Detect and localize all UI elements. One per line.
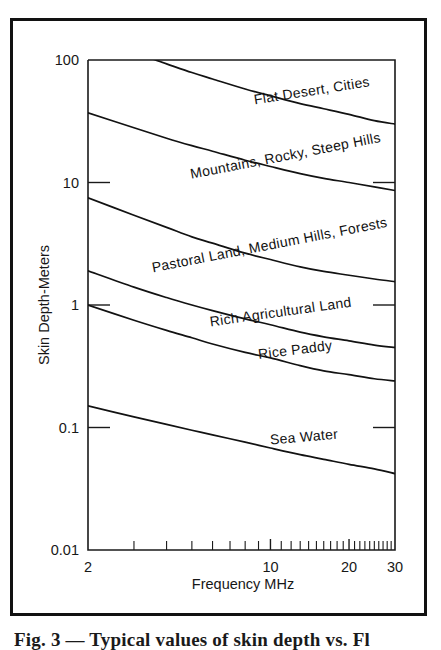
x-tick-label: 30 bbox=[387, 559, 403, 575]
y-tick-label: 0.01 bbox=[51, 542, 79, 558]
curve-label-1: Mountains, Rocky, Steep Hills bbox=[189, 129, 382, 182]
curve-label-0: Flat Desert, Cities bbox=[253, 73, 371, 107]
x-axis-ticks: 2102030 bbox=[84, 539, 403, 575]
curve-label-4: Rice Paddy bbox=[257, 337, 333, 362]
x-tick-label: 2 bbox=[84, 559, 92, 575]
curve-5 bbox=[88, 406, 395, 474]
x-tick-label: 20 bbox=[341, 559, 357, 575]
skin-depth-chart: 0.010.1110100 2102030 Flat Desert, Citie… bbox=[0, 0, 441, 650]
x-tick-label: 10 bbox=[262, 559, 278, 575]
curve-1 bbox=[88, 113, 395, 191]
curve-label-5: Sea Water bbox=[269, 426, 338, 448]
figure-caption: Fig. 3 — Typical values of skin depth vs… bbox=[14, 629, 434, 650]
y-tick-label: 10 bbox=[63, 175, 79, 191]
curve-label-3: Rich Agricultural Land bbox=[209, 294, 353, 330]
y-axis-title: Skin Depth-Meters bbox=[36, 245, 52, 365]
curve-label-2: Pastoral Land, Medium Hills, Forests bbox=[150, 214, 388, 275]
curve-labels: Flat Desert, CitiesMountains, Rocky, Ste… bbox=[150, 73, 388, 447]
y-tick-label: 100 bbox=[55, 52, 79, 68]
y-tick-label: 1 bbox=[71, 297, 79, 313]
x-axis-title: Frequency MHz bbox=[192, 576, 294, 592]
y-tick-label: 0.1 bbox=[59, 420, 79, 436]
curve-2 bbox=[88, 198, 395, 282]
